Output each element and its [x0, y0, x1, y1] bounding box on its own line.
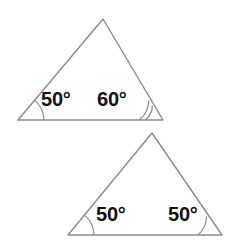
triangle-2-right-angle-arc — [198, 217, 206, 236]
triangle-2-group — [68, 133, 222, 235]
triangle-1-left-angle-label: 50° — [41, 89, 71, 109]
triangle-1-outline — [18, 19, 163, 120]
triangle-2-right-angle-label: 50° — [168, 204, 198, 224]
triangle-1-group — [18, 19, 163, 120]
triangle-1-right-angle-arc-outer — [139, 101, 149, 121]
triangle-2-outline — [68, 133, 222, 235]
triangle-2-left-angle-label: 50° — [96, 204, 126, 224]
triangle-1-right-angle-label: 60° — [97, 89, 127, 109]
triangle-2-left-angle-arc — [85, 215, 94, 235]
figure-canvas: 50° 60° 50° 50° — [0, 0, 226, 244]
